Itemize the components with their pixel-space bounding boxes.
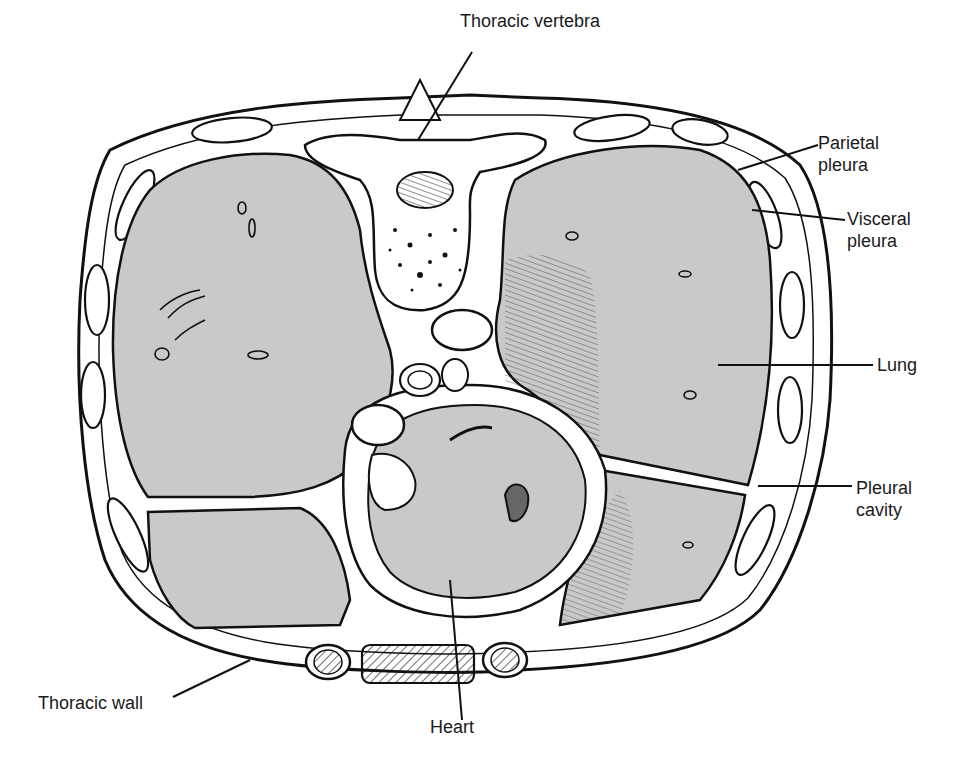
label-heart: Heart	[430, 716, 474, 738]
label-thoracic-wall: Thoracic wall	[38, 692, 143, 714]
label-pleural-cavity: Pleural cavity	[856, 477, 912, 521]
thorax-cross-section-diagram: Thoracic vertebra Parietal pleura Viscer…	[0, 0, 980, 778]
label-parietal-pleura: Parietal pleura	[818, 132, 879, 176]
label-visceral-pleura: Visceral pleura	[847, 208, 911, 252]
label-lung: Lung	[877, 354, 917, 376]
sternum	[306, 643, 527, 683]
heart	[343, 385, 606, 617]
label-thoracic-vertebra: Thoracic vertebra	[460, 10, 600, 32]
diagram-svg	[0, 0, 980, 778]
